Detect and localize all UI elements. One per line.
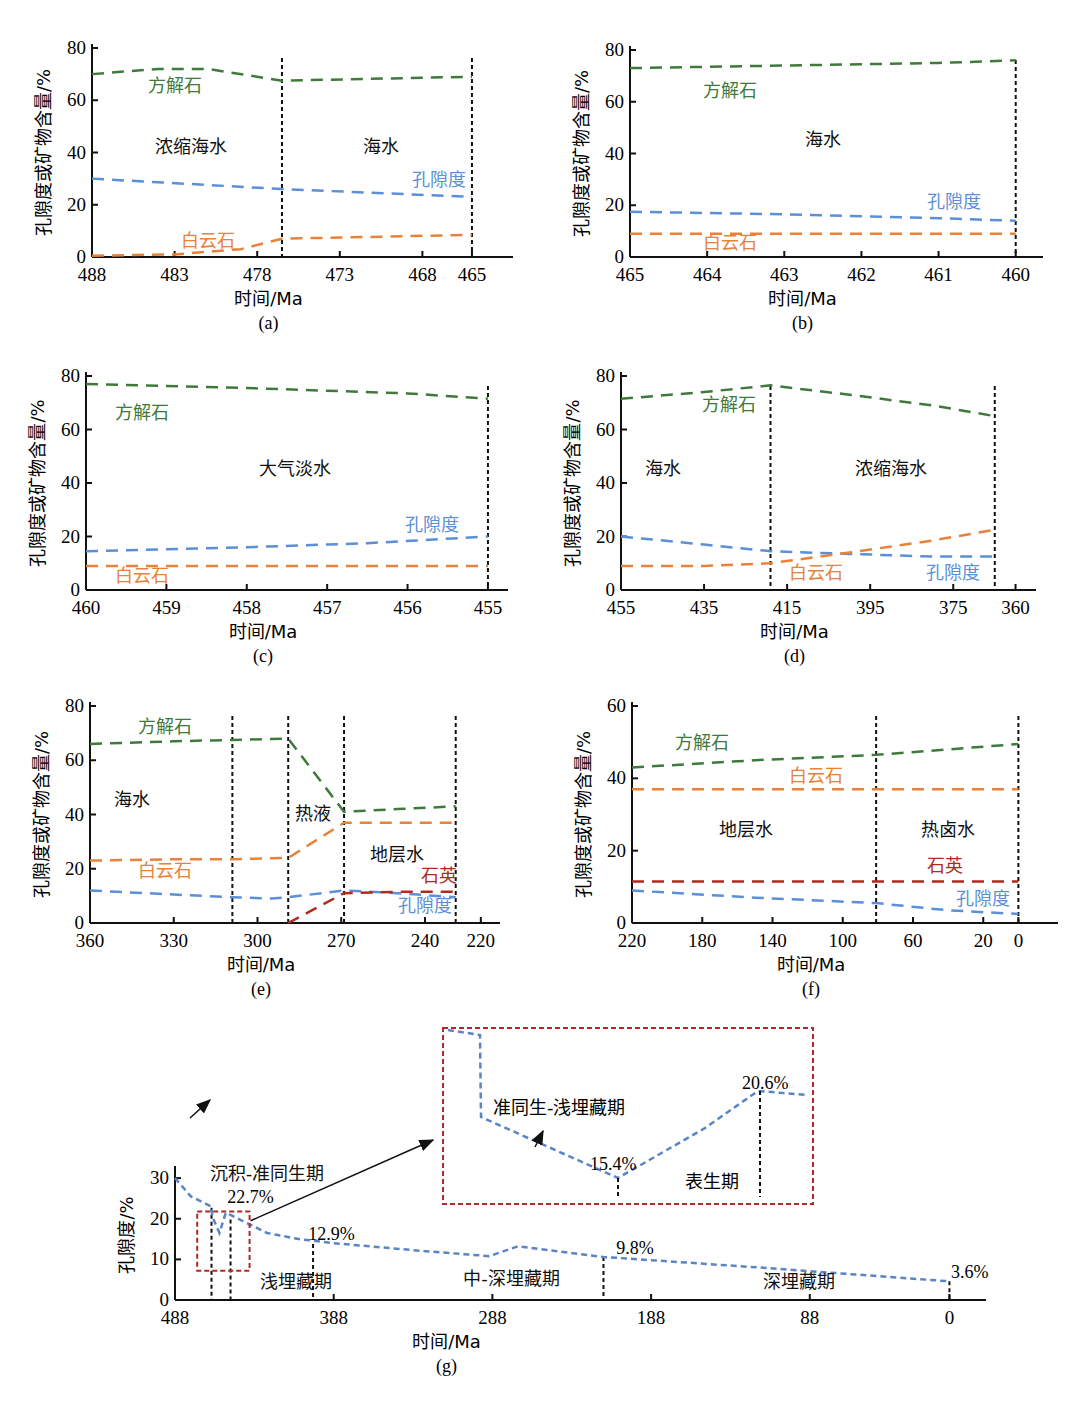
series-label-quartz: 石英 (927, 855, 963, 876)
y-tick-label: 80 (67, 37, 86, 58)
x-axis-label: 时间/Ma (768, 288, 837, 309)
inset-annotation: 20.6% (742, 1073, 789, 1093)
x-tick-label: 415 (773, 597, 802, 618)
series-label-dolomite: 白云石 (181, 230, 235, 251)
value-annotation: 9.8% (616, 1238, 654, 1258)
series-label-dolomite: 白云石 (789, 765, 843, 786)
x-tick-label: 20 (974, 930, 993, 951)
x-tick-label: 468 (408, 264, 437, 285)
zone-label: 地层水 (719, 819, 773, 840)
series-label-calcite: 方解石 (702, 394, 756, 415)
chart-panel-d: 020406080455435415395375360孔隙度或矿物含量/%时间/… (540, 360, 1084, 670)
panel-caption: (d) (784, 646, 805, 667)
x-tick-label: 288 (478, 1307, 507, 1328)
x-tick-label: 435 (690, 597, 719, 618)
x-tick-label: 300 (243, 930, 272, 951)
series-line-dolomite (92, 235, 472, 256)
x-tick-label: 0 (1014, 930, 1024, 951)
zone-label: 大气淡水 (259, 458, 331, 479)
series-label-calcite: 方解石 (675, 732, 729, 753)
x-axis-label: 时间/Ma (229, 621, 298, 642)
chart-e-svg: 020406080360330300270240220孔隙度或矿物含量/%时间/… (0, 690, 560, 1010)
chart-panel-b: 020406080465464463462461460孔隙度或矿物含量/%时间/… (540, 30, 1084, 340)
x-tick-label: 395 (856, 597, 885, 618)
chart-b-svg: 020406080465464463462461460孔隙度或矿物含量/%时间/… (540, 30, 1084, 340)
x-axis-label: 时间/Ma (412, 1331, 481, 1352)
x-axis-label: 时间/Ma (777, 954, 846, 975)
y-tick-label: 40 (596, 472, 615, 493)
x-tick-label: 180 (688, 930, 717, 951)
x-tick-label: 488 (78, 264, 107, 285)
x-tick-label: 0 (945, 1307, 955, 1328)
y-axis-label: 孔隙度或矿物含量/% (571, 70, 592, 237)
zone-label: 海水 (805, 129, 841, 150)
series-label-dolomite: 白云石 (703, 232, 757, 253)
zone-label: 浓缩海水 (855, 458, 927, 479)
series-line-porosity (630, 212, 1016, 221)
panel-caption: (c) (253, 646, 273, 667)
y-tick-label: 40 (605, 143, 624, 164)
x-tick-label: 375 (939, 597, 968, 618)
y-axis-label: 孔隙度或矿物含量/% (31, 731, 52, 898)
y-tick-label: 60 (596, 419, 615, 440)
y-tick-label: 40 (607, 767, 626, 788)
x-tick-label: 455 (607, 597, 636, 618)
panel-caption: (f) (802, 979, 820, 1000)
series-label-calcite: 方解石 (703, 80, 757, 101)
x-axis-label: 时间/Ma (227, 954, 296, 975)
y-axis-label: 孔隙度或矿物含量/% (573, 731, 594, 898)
x-tick-label: 465 (458, 264, 487, 285)
x-tick-label: 220 (618, 930, 647, 951)
y-axis-label: 孔隙度/% (116, 1196, 137, 1273)
y-tick-label: 80 (596, 365, 615, 386)
zone-label: 中-深埋藏期 (463, 1268, 560, 1289)
x-tick-label: 360 (1001, 597, 1030, 618)
y-tick-label: 80 (605, 39, 624, 60)
zone-label: 热卤水 (921, 819, 975, 840)
x-tick-label: 270 (327, 930, 356, 951)
y-tick-label: 20 (150, 1208, 169, 1229)
value-annotation: 12.9% (308, 1224, 355, 1244)
x-tick-label: 455 (474, 597, 503, 618)
chart-c-svg: 020406080460459458457456455孔隙度或矿物含量/%时间/… (0, 360, 540, 670)
x-tick-label: 330 (160, 930, 189, 951)
series-label-dolomite: 白云石 (138, 860, 192, 881)
series-line-dolomite (621, 530, 995, 566)
x-tick-label: 473 (326, 264, 355, 285)
x-tick-label: 88 (800, 1307, 819, 1328)
y-tick-label: 40 (67, 142, 86, 163)
chart-a-svg: 020406080488483478473468465孔隙度或矿物含量/%时间/… (0, 30, 540, 340)
zone-label: 热液 (295, 803, 331, 824)
chart-panel-a: 020406080488483478473468465孔隙度或矿物含量/%时间/… (0, 30, 540, 340)
y-tick-label: 40 (61, 472, 80, 493)
series-line-porosity (86, 537, 488, 552)
chart-d-svg: 020406080455435415395375360孔隙度或矿物含量/%时间/… (540, 360, 1084, 670)
y-tick-label: 20 (67, 194, 86, 215)
x-tick-label: 462 (847, 264, 876, 285)
x-tick-label: 360 (76, 930, 105, 951)
zone-label: 海水 (645, 458, 681, 479)
y-tick-label: 20 (605, 194, 624, 215)
zone-label: 深埋藏期 (763, 1271, 835, 1292)
inset-zone-label: 准同生-浅埋藏期 (493, 1097, 626, 1118)
series-label-porosity: 孔隙度 (926, 562, 980, 583)
y-tick-label: 60 (65, 749, 84, 770)
x-tick-label: 220 (467, 930, 496, 951)
x-tick-label: 459 (152, 597, 181, 618)
series-line-porosity (621, 537, 995, 557)
x-tick-label: 483 (160, 264, 189, 285)
y-tick-label: 60 (607, 695, 626, 716)
inset-annotation: 15.4% (590, 1154, 637, 1174)
inset-zone-label: 表生期 (685, 1171, 739, 1192)
series-label-quartz: 石英 (421, 865, 457, 886)
x-tick-label: 457 (313, 597, 342, 618)
y-tick-label: 60 (605, 91, 624, 112)
panel-caption: (a) (259, 313, 279, 334)
zone-label: 地层水 (370, 844, 424, 865)
zone-label: 海水 (363, 136, 399, 157)
x-tick-label: 458 (233, 597, 262, 618)
x-tick-label: 240 (411, 930, 440, 951)
y-tick-label: 30 (150, 1167, 169, 1188)
series-label-dolomite: 白云石 (115, 565, 169, 586)
x-axis-label: 时间/Ma (760, 621, 829, 642)
